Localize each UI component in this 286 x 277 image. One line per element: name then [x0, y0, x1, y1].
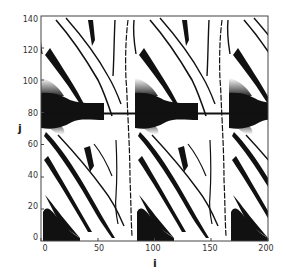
y-tick-label: 0 — [33, 233, 38, 242]
y-tick-label: 140 — [23, 15, 38, 24]
x-axis: 0 50 100 150 200 i — [41, 238, 274, 270]
x-tick-label: 50 — [94, 244, 104, 253]
y-tick-label: 40 — [28, 171, 38, 180]
y-tick-label: 100 — [23, 77, 38, 86]
x-tick-label: 150 — [202, 244, 217, 253]
y-axis-label: j — [17, 122, 22, 135]
y-tick-label: 60 — [28, 140, 38, 149]
x-axis-label: i — [153, 257, 157, 270]
chart-figure: 0 50 100 150 200 i 0 20 40 60 80 100 120… — [0, 0, 286, 277]
y-tick-label: 20 — [28, 202, 38, 211]
x-tick-label: 100 — [145, 244, 160, 253]
x-tick-label: 200 — [258, 244, 273, 253]
y-tick-label: 80 — [28, 109, 38, 118]
y-tick-label: 120 — [23, 46, 38, 55]
y-axis: 0 20 40 60 80 100 120 140 j — [17, 15, 44, 242]
x-tick-label: 0 — [42, 244, 47, 253]
plot-area — [0, 16, 286, 241]
